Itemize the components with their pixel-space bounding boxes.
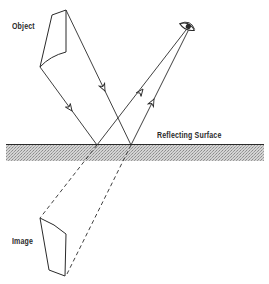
virtual-rays [40,145,131,276]
reflected-rays [97,30,188,145]
object-label: Object [12,21,35,31]
image-shape [40,218,66,276]
reflection-diagram [0,0,269,284]
eye-icon [179,19,197,32]
arrowhead-icon [65,104,74,113]
arrowhead-icon [148,98,157,107]
arrowhead-icon [99,83,107,92]
image-label: Image [12,236,33,246]
object-shape [40,10,66,67]
surface-label: Reflecting Surface [157,130,221,140]
incident-rays [40,10,131,145]
reflecting-surface [6,145,264,162]
